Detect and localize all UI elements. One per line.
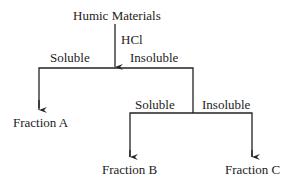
fraction-c-label: Fraction C [225,163,280,177]
split2-soluble-label: Soluble [135,98,175,112]
split2-insoluble-label: Insoluble [202,98,250,112]
split2-line [130,113,252,157]
reagent-label: HCl [121,33,143,47]
fraction-b-label: Fraction B [102,163,157,177]
split1-insoluble-label: Insoluble [130,51,178,65]
root-label: Humic Materials [73,9,161,23]
fraction-a-label: Fraction A [13,116,68,130]
split1-soluble-label: Soluble [50,51,90,65]
